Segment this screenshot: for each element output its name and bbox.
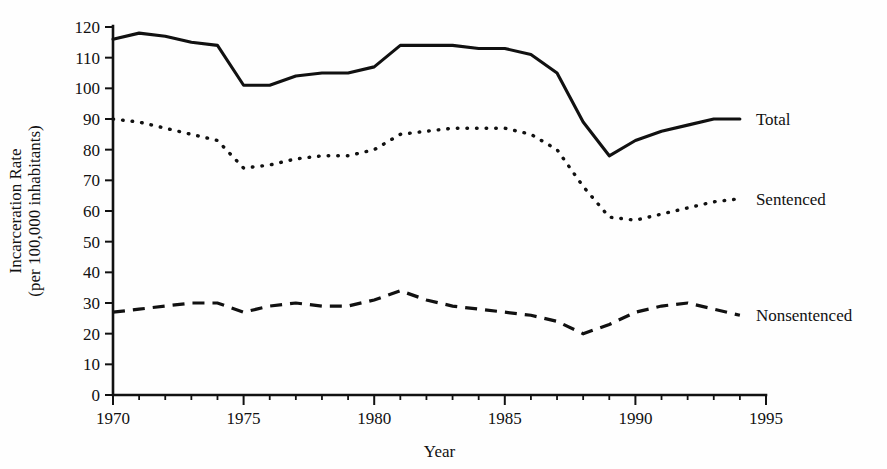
x-axis-tick-label: 1975 <box>227 409 261 428</box>
y-axis-tick-label: 0 <box>92 386 101 405</box>
y-axis-tick-label: 110 <box>75 49 100 68</box>
y-axis-tick-label: 30 <box>83 294 100 313</box>
y-axis-title-line2: (per 100,000 inhabitants) <box>25 125 44 296</box>
y-axis-tick-label: 70 <box>83 171 100 190</box>
y-axis-tick-label: 50 <box>83 233 100 252</box>
series-label-nonsentenced: Nonsentenced <box>756 306 853 325</box>
series-label-sentenced: Sentenced <box>756 190 826 209</box>
y-axis-tick-label: 40 <box>83 263 100 282</box>
series-line-sentenced <box>113 119 740 220</box>
x-axis-tick-label: 1980 <box>357 409 391 428</box>
x-axis-tick-label: 1985 <box>488 409 522 428</box>
y-axis-tick-label: 120 <box>75 18 101 37</box>
series-label-total: Total <box>756 110 791 129</box>
incarceration-rate-chart: 0102030405060708090100110120197019751980… <box>0 0 887 469</box>
y-axis-tick-label: 80 <box>83 141 100 160</box>
y-axis-tick-label: 90 <box>83 110 100 129</box>
x-axis-tick-label: 1995 <box>749 409 783 428</box>
y-axis-tick-label: 60 <box>83 202 100 221</box>
chart-canvas: 0102030405060708090100110120197019751980… <box>0 0 887 469</box>
y-axis-tick-label: 10 <box>83 355 100 374</box>
x-axis-title: Year <box>424 442 456 461</box>
y-axis-tick-label: 20 <box>83 325 100 344</box>
series-line-nonsentenced <box>113 291 740 334</box>
x-axis-tick-label: 1970 <box>96 409 130 428</box>
y-axis-title-line1: Incarceration Rate <box>6 148 25 273</box>
y-axis-tick-label: 100 <box>75 79 101 98</box>
x-axis-tick-label: 1990 <box>618 409 652 428</box>
y-axis-title: Incarceration Rate(per 100,000 inhabitan… <box>6 125 44 296</box>
chart-axes <box>113 26 766 395</box>
